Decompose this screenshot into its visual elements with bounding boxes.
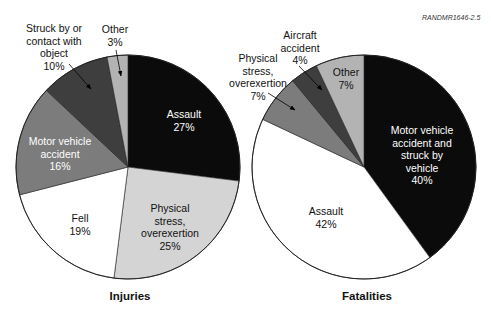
label-fatalities-physical: Physical stress, overexertion 7% (229, 52, 287, 102)
label-injuries-physical: Physical stress, overexertion 25% (141, 202, 199, 252)
label-fatalities-assault: Assault 42% (309, 205, 343, 230)
injuries-title: Injuries (110, 290, 151, 302)
label-fatalities-other: Other 7% (333, 66, 359, 91)
label-injuries-motor: Motor vehicle accident 16% (29, 135, 91, 173)
label-injuries-assault: Assault 27% (167, 108, 201, 133)
label-fatalities-aircraft: Aircraft accident 4% (280, 29, 319, 67)
label-injuries-fell: Fell 19% (69, 212, 90, 237)
fatalities-title: Fatalities (342, 290, 392, 302)
label-injuries-struck: Struck by or contact with object 10% (26, 22, 82, 72)
label-injuries-other: Other 3% (102, 23, 128, 48)
label-fatalities-motor: Motor vehicle accident and struck by veh… (391, 124, 453, 187)
source-id: RANDMR1646-2.5 (422, 14, 480, 21)
